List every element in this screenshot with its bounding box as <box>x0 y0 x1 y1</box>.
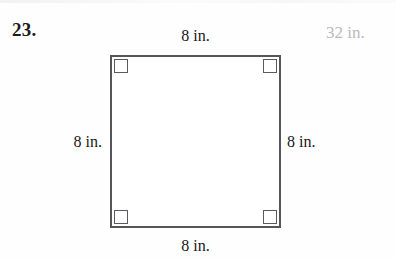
right-angle-icon-top-left <box>114 59 128 73</box>
side-label-right: 8 in. <box>287 134 347 150</box>
side-label-bottom: 8 in. <box>110 238 281 254</box>
square-figure: 8 in. 8 in. 8 in. 8 in. <box>110 55 281 228</box>
side-label-top: 8 in. <box>110 28 281 44</box>
problem-number: 23. <box>12 20 37 39</box>
side-label-left: 8 in. <box>46 134 102 150</box>
right-angle-icon-bottom-right <box>263 210 277 224</box>
right-angle-icon-top-right <box>263 59 277 73</box>
right-angle-icon-bottom-left <box>114 210 128 224</box>
scan-artifact-edge <box>0 0 396 3</box>
answer-value: 32 in. <box>326 24 365 41</box>
square-outline <box>110 55 281 228</box>
worksheet-page: 23. 32 in. 8 in. 8 in. 8 in. 8 in. <box>0 0 396 258</box>
